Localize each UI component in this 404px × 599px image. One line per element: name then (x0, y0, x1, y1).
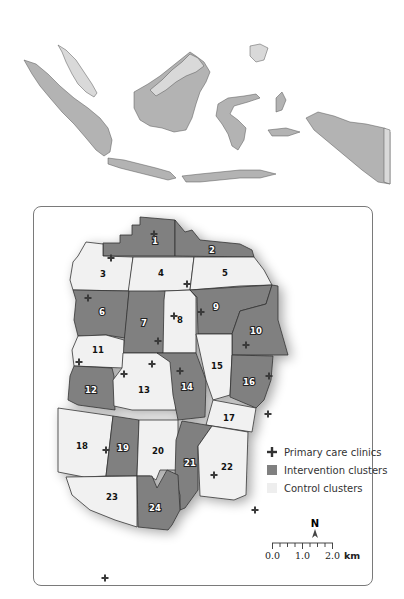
cross-icon (267, 447, 277, 457)
cluster-label: 24 (149, 503, 161, 513)
scale-tick-label: 0.0 (265, 550, 280, 561)
cluster-label: 13 (138, 385, 150, 395)
cluster-label: 15 (211, 361, 223, 371)
legend-item-clinics: Primary care clinics (267, 443, 387, 461)
intervention-swatch-icon (267, 465, 277, 475)
cluster-label: 20 (152, 446, 164, 456)
cluster-label: 6 (99, 307, 105, 317)
legend-label: Primary care clinics (284, 447, 382, 458)
scale-tick-label: 2.0 (325, 550, 340, 561)
cluster-label: 2 (209, 245, 215, 255)
cluster-label: 5 (222, 268, 228, 278)
cluster-24 (137, 470, 180, 530)
clinic-cross-icon (252, 507, 259, 514)
cluster-label: 11 (92, 345, 104, 355)
cluster-23 (66, 476, 137, 527)
clinic-cross-icon (102, 575, 109, 582)
cluster-label: 1 (152, 236, 158, 246)
legend-label: Control clusters (284, 483, 363, 494)
cluster-5 (190, 257, 272, 290)
north-arrow: N (308, 518, 322, 538)
north-label: N (308, 518, 322, 529)
cluster-label: 21 (184, 458, 196, 468)
scale-tick-label: 1.0 (295, 550, 310, 561)
map-legend: Primary care clinics Intervention cluste… (267, 443, 387, 497)
cluster-label: 17 (223, 413, 235, 423)
cluster-label: 7 (141, 318, 147, 328)
legend-label: Intervention clusters (284, 465, 387, 476)
cluster-label: 14 (181, 382, 193, 392)
scale-unit-label: km (344, 550, 360, 561)
cluster-label: 18 (76, 441, 88, 451)
cluster-label: 4 (158, 268, 164, 278)
cluster-label: 9 (213, 302, 219, 312)
cluster-label: 10 (250, 326, 262, 336)
cluster-label: 23 (106, 492, 118, 502)
north-arrow-icon (311, 529, 319, 538)
legend-item-control: Control clusters (267, 479, 387, 497)
legend-item-intervention: Intervention clusters (267, 461, 387, 479)
control-swatch-icon (267, 483, 277, 493)
scale-ruler-icon (272, 542, 334, 550)
cluster-label: 8 (177, 315, 183, 325)
cluster-label: 22 (221, 462, 233, 472)
cluster-label: 12 (85, 385, 97, 395)
clinic-cross-icon (265, 411, 272, 418)
cluster-1 (103, 217, 175, 256)
cluster-label: 16 (243, 377, 255, 387)
cluster-map: 1 2 3 4 5 6 7 8 9 10 11 12 13 14 15 16 1… (0, 0, 404, 599)
cluster-label: 19 (117, 443, 129, 453)
cluster-label: 3 (100, 269, 106, 279)
cluster-13 (113, 353, 176, 410)
